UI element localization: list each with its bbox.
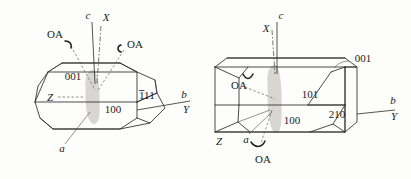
left-100-bottom-edge <box>40 118 137 129</box>
right-axis-Z-label: Z <box>216 135 223 147</box>
left-axis-Z-label: Z <box>47 91 54 103</box>
right-optic-axis-upper-label: OA <box>231 79 247 91</box>
left-optic-blob <box>85 70 99 124</box>
left-axis-a-leader <box>65 112 90 144</box>
right-axis-b-Y-line <box>357 110 395 114</box>
right-face-100-label: 100 <box>284 114 301 126</box>
left-optic-axis-left-leader <box>71 46 95 90</box>
right-axis-X-label: X <box>262 22 271 34</box>
right-crystal: c X 001 OA 101 210 100 Z a OA b Y <box>215 9 399 165</box>
left-axis-b-label: b <box>181 88 187 100</box>
right-lower-right-bevel <box>310 124 345 132</box>
right-left-bevel-lower <box>215 105 239 132</box>
right-axis-Z-leader <box>238 110 270 122</box>
left-axis-c-label: c <box>86 9 91 21</box>
right-left-bevel-upper2 <box>239 67 248 78</box>
right-axis-Y-label: Y <box>391 110 399 122</box>
left-axis-X-label: X <box>102 11 111 23</box>
right-face-001-label: 001 <box>355 52 372 64</box>
right-optic-axis-upper-arc-icon <box>243 74 253 79</box>
left-crystal: c X OA OA 001 100 111 Z a b Y <box>35 9 191 154</box>
left-terminal-right-link3 <box>120 63 137 102</box>
left-optic-axis-left-label: OA <box>47 28 63 40</box>
right-face-210-upper <box>345 67 357 132</box>
left-face-100-label: 100 <box>105 103 122 115</box>
right-optic-axis-lower-arc-icon <box>251 141 265 146</box>
left-axis-Y-label: Y <box>183 103 191 115</box>
right-optic-axis-lower-label: OA <box>255 153 271 165</box>
right-face-101-bevel-top <box>331 67 345 72</box>
right-axis-c-label: c <box>279 9 284 21</box>
crystal-figure: c X OA OA 001 100 111 Z a b Y <box>0 0 411 179</box>
right-axis-b-label: b <box>390 94 396 106</box>
left-optic-axis-left-arc-icon <box>65 41 71 48</box>
left-optic-axis-right-arc-icon <box>118 45 121 52</box>
right-optic-axis-lower-leader <box>261 110 272 143</box>
left-optic-axis-right-leader <box>97 50 124 92</box>
left-face-001-label: 001 <box>65 70 82 82</box>
right-top-slab <box>215 58 357 67</box>
left-axis-a-label: a <box>59 142 65 154</box>
left-optic-axis-right-label: OA <box>127 38 143 50</box>
right-left-bevel-lower2 <box>238 122 250 132</box>
right-axis-a-leader <box>249 112 272 134</box>
left-terminal-left-upper <box>48 63 62 72</box>
left-face-1bar11-group: 111 <box>139 89 155 101</box>
left-axis-X-line <box>97 26 101 84</box>
left-terminal-right-link4 <box>155 80 157 93</box>
right-axis-a-label: a <box>243 133 249 145</box>
right-face-101-label: 101 <box>302 88 319 100</box>
right-face-210-label: 210 <box>329 108 346 120</box>
